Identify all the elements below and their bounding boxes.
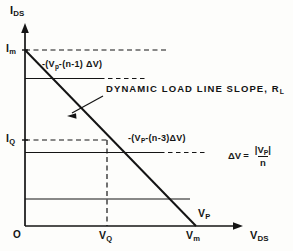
formula-fraction: |VP| n — [253, 144, 273, 168]
origin-label: O — [13, 230, 21, 240]
x-tick-vm: Vm — [186, 230, 200, 243]
x-axis — [25, 222, 243, 230]
y-tick-im: Im — [6, 43, 16, 56]
delta-v-formula: ΔV = |VP| n — [228, 144, 273, 168]
figure-container: IDS VDS O Im IQ VQ Vm VP -(Vp-(n-1) ΔV) … — [0, 0, 293, 251]
formula-denominator: n — [258, 156, 268, 168]
x-tick-vq: VQ — [99, 230, 112, 243]
load-line-caption: DYNAMIC LOAD LINE SLOPE, RL — [106, 84, 284, 96]
formula-lhs: ΔV — [228, 150, 241, 161]
formula-equals: = — [243, 150, 249, 161]
annotation-q-level: -(VP-(n-3)ΔV) — [128, 134, 186, 144]
y-axis-label: IDS — [10, 5, 24, 18]
formula-numerator: |VP| — [253, 144, 273, 156]
x-axis-label: VDS — [250, 230, 269, 243]
annotation-upper-level: -(Vp-(n-1) ΔV) — [42, 60, 102, 70]
load-line-chart — [0, 0, 293, 251]
y-tick-iq: IQ — [6, 133, 15, 146]
vp-point-label: VP — [198, 208, 210, 221]
